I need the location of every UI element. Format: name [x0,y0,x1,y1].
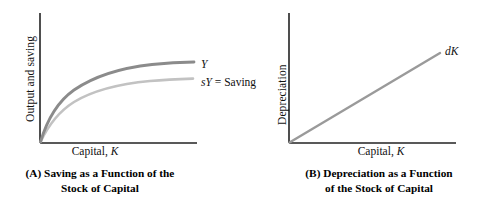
panel-b-line-depreciation [290,53,441,143]
panel-b-y-axis-label: Depreciation [276,64,288,125]
panel-a-x-axis-label-var: K [111,145,119,157]
panel-a-curve-output [41,62,195,142]
panel-b-caption-line1: (B) Depreciation as a Function [305,167,452,179]
panel-a-x-axis-label-text: Capital, [72,145,111,157]
panel-a-label-output-var: Y [201,58,207,70]
panel-b-label-depreciation-var: K [451,45,459,57]
panel-a-label-output: Y [201,58,207,70]
panel-b-x-axis-label-text: Capital, [358,145,397,157]
panel-a-curve-saving [41,79,194,142]
panel-b-depreciation: Depreciation Capital, K dK (B) Depreciat… [243,0,487,212]
panel-a-caption-line2: Stock of Capital [0,181,222,196]
panel-a-caption-line1: (A) Saving as a Function of the [26,167,175,179]
panel-b-x-axis-label: Capital, K [259,145,487,157]
panel-a-y-axis-label: Output and saving [24,36,36,122]
panel-b-caption: (B) Depreciation as a Functionof the Sto… [257,166,487,195]
panel-b-x-axis-label-var: K [397,145,405,157]
panel-a-saving: Output and saving Capital, K Y sY = Savi… [0,0,244,212]
panel-a-x-axis-label: Capital, K [0,145,217,157]
panel-a-caption: (A) Saving as a Function of theStock of … [0,166,222,195]
panel-b-label-depreciation: dK [445,45,458,57]
panel-b-caption-line2: of the Stock of Capital [257,181,487,196]
figure-container: Output and saving Capital, K Y sY = Savi… [0,0,487,212]
